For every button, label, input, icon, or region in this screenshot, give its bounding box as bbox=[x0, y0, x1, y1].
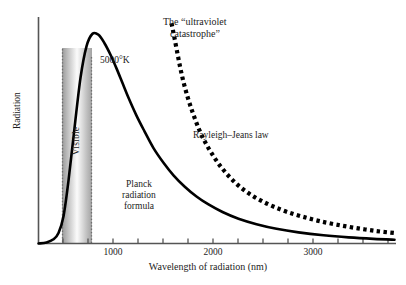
blackbody-radiation-figure: 5000°K The “ultravioletcatastrophe” Rayl… bbox=[0, 0, 406, 285]
x-axis-ticks bbox=[63, 239, 388, 244]
y-axis-label: Radiation bbox=[12, 79, 23, 143]
uv-catastrophe-line1: The “ultraviolet bbox=[163, 16, 227, 27]
planck-line1: Planck bbox=[108, 179, 170, 190]
rayleigh-jeans-label: Rayleigh–Jeans law bbox=[193, 130, 269, 141]
planck-line3: formula bbox=[108, 201, 170, 212]
x-axis-label: Wavelength of radiation (nm) bbox=[113, 261, 303, 273]
visible-band-label: Visible bbox=[71, 118, 81, 164]
x-tick-label-2000: 2000 bbox=[193, 247, 233, 257]
uv-catastrophe-label: The “ultravioletcatastrophe” bbox=[163, 16, 227, 40]
x-tick-label-3000: 3000 bbox=[293, 247, 333, 257]
temperature-label: 5000°K bbox=[100, 55, 130, 66]
x-tick-label-1000: 1000 bbox=[93, 247, 133, 257]
uv-catastrophe-line2: catastrophe” bbox=[163, 28, 227, 40]
planck-line2: radiation bbox=[108, 190, 170, 201]
planck-formula-label: Planckradiationformula bbox=[108, 179, 170, 213]
chart-canvas bbox=[0, 0, 406, 285]
